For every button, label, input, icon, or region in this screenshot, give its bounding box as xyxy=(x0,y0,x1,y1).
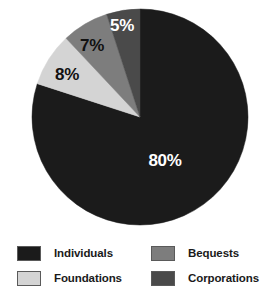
legend-swatch-foundations xyxy=(17,271,41,286)
legend-swatch-corporations xyxy=(151,271,175,286)
legend-label-foundations: Foundations xyxy=(54,272,122,284)
legend-item-individuals[interactable]: Individuals xyxy=(17,243,113,263)
pie-slice-value-bequests: 7% xyxy=(80,36,104,55)
legend-label-corporations: Corporations xyxy=(188,272,259,284)
legend-item-bequests[interactable]: Bequests xyxy=(151,243,239,263)
chart-legend: Individuals Foundations Bequests Corpora… xyxy=(0,239,280,297)
pie-slices-group xyxy=(32,9,248,225)
pie-slice-value-corporations: 5% xyxy=(110,16,134,35)
pie-plot-area: 80%8%7%5% xyxy=(0,0,280,233)
pie-slice-value-individuals: 80% xyxy=(148,151,181,170)
legend-label-individuals: Individuals xyxy=(54,247,113,259)
legend-swatch-individuals xyxy=(17,246,41,261)
pie-chart: 80%8%7%5% Individuals Foundations Beques… xyxy=(0,0,280,301)
legend-item-foundations[interactable]: Foundations xyxy=(17,268,122,288)
pie-slice-value-foundations: 8% xyxy=(55,65,79,84)
pie-svg: 80%8%7%5% xyxy=(0,0,280,233)
legend-item-corporations[interactable]: Corporations xyxy=(151,268,259,288)
legend-swatch-bequests xyxy=(151,246,175,261)
legend-label-bequests: Bequests xyxy=(188,247,239,259)
